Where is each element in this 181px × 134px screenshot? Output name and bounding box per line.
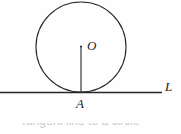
line-label-l: L (165, 80, 172, 93)
tangent-point-label-a: A (76, 97, 84, 110)
caption-text: Tangent line to a circle (20, 123, 139, 128)
geometry-figure: O A L Tangent line to a circle (0, 0, 181, 134)
geometry-canvas (0, 0, 181, 134)
center-point-dot (80, 46, 82, 48)
center-label-o: O (87, 39, 96, 52)
caption-strip: Tangent line to a circle (0, 123, 181, 134)
